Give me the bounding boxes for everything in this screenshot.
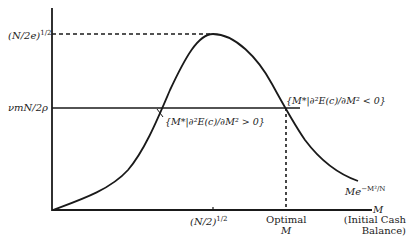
x-axis-title-line1: (Initial Cash (336, 214, 406, 225)
y-label-peak-base: (N/2e) (8, 30, 40, 41)
annotation-concave: {M*|∂²E(c)/∂M² < 0} (286, 95, 386, 106)
x-axis-title: (Initial Cash Balance) (336, 214, 406, 236)
curve-label: Me−M²/N (345, 184, 386, 197)
x-label-optimal-line1: Optimal (266, 214, 306, 225)
annotation-convex: {M*|∂²E(c)/∂M² > 0} (165, 116, 265, 127)
x-label-peak: (N/2)1/2 (190, 214, 228, 227)
curve-label-exp: −M²/N (361, 185, 385, 193)
x-axis-title-line2: Balance) (336, 225, 406, 236)
y-label-peak-exp: 1/2 (40, 29, 51, 37)
x-label-peak-exp: 1/2 (216, 215, 227, 223)
x-label-optimal-line2: M (266, 225, 306, 236)
x-label-optimal: Optimal M (266, 214, 306, 236)
y-label-peak: (N/2e)1/2 (8, 28, 51, 41)
curve-label-base: Me (345, 186, 361, 197)
y-label-level: νmN/2ρ (8, 102, 48, 113)
x-label-peak-base: (N/2) (190, 216, 216, 227)
